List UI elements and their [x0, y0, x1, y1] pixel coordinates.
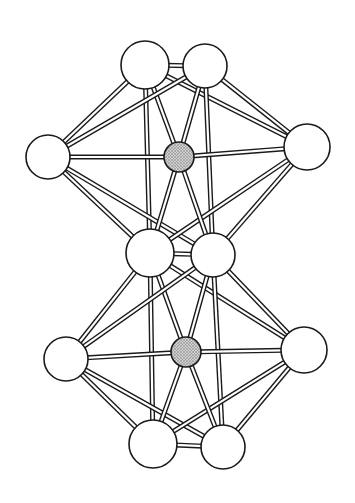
outer-atom [191, 233, 235, 277]
outer-atom [121, 41, 169, 89]
bonds-layer [63, 65, 294, 446]
bond-stick [226, 163, 293, 240]
center-atom [171, 337, 201, 367]
outer-atom [183, 44, 227, 88]
outer-atom [126, 229, 174, 277]
cluster-diagram [0, 0, 355, 503]
outer-atom [281, 327, 327, 373]
bond-stick [175, 445, 203, 446]
outer-atom [284, 124, 330, 170]
cluster-diagram-canvas [0, 0, 355, 503]
outer-atom [44, 337, 88, 381]
bond-stick [199, 350, 283, 351]
outer-atom [129, 420, 177, 468]
center-atom [164, 142, 194, 172]
bond-stick [227, 269, 290, 334]
bond-stick [183, 85, 200, 144]
outer-atom [201, 425, 245, 469]
bond-stick [63, 80, 130, 143]
bond-stick [160, 364, 181, 423]
bond-stick [172, 361, 286, 432]
bond-stick [172, 254, 193, 255]
outer-atom [26, 135, 70, 179]
bond-stick [86, 353, 173, 358]
bond-stick [156, 169, 175, 231]
